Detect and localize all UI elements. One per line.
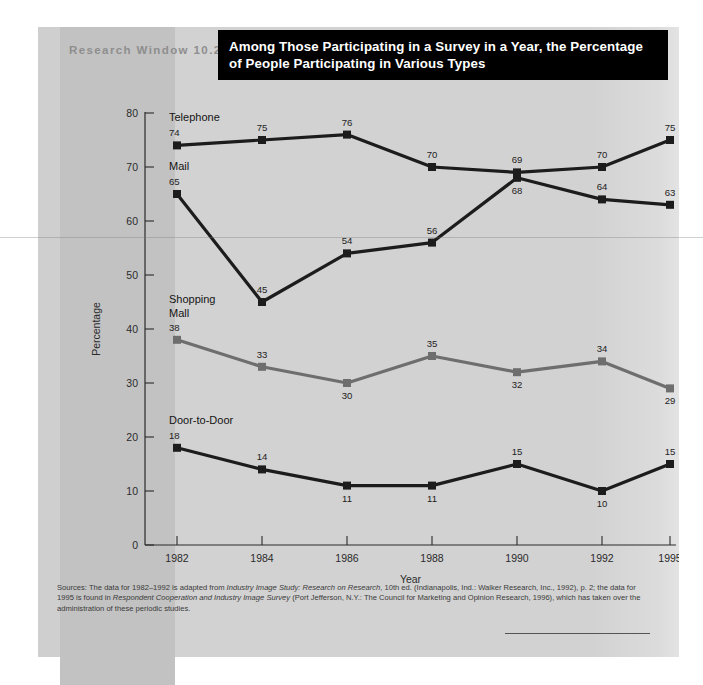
data-point-label: 15 xyxy=(665,446,676,457)
source-line3: administration of these periodic studies… xyxy=(57,604,190,613)
y-tick-label: 60 xyxy=(126,215,138,227)
data-point-label: 18 xyxy=(169,430,180,441)
data-point-marker xyxy=(513,174,521,182)
data-point-marker xyxy=(343,379,351,387)
source-line1-a: Sources: The data for 1982–1992 is adapt… xyxy=(57,583,227,592)
series-label-door-to-door: Door-to-Door xyxy=(169,414,234,426)
series-label-line: Mall xyxy=(169,307,189,319)
data-point-label: 11 xyxy=(342,493,352,504)
chart-svg: 01020304050607080Percentage1982198419861… xyxy=(38,27,679,657)
x-tick-label: 1988 xyxy=(420,552,444,564)
x-tick-label: 1990 xyxy=(505,552,529,564)
data-point-marker xyxy=(428,352,436,360)
y-axis-ticks: 01020304050607080 xyxy=(126,107,154,551)
y-tick-label: 40 xyxy=(126,323,138,335)
data-point-label: 65 xyxy=(169,176,180,187)
data-point-label: 75 xyxy=(665,122,676,133)
series-line xyxy=(177,178,670,302)
series-mail: 65455456686463 xyxy=(169,174,675,306)
page-root: Research Window 10.2 Among Those Partici… xyxy=(0,0,703,685)
series-door-to-door: 18141111151015 xyxy=(169,430,675,509)
data-point-label: 33 xyxy=(257,349,268,360)
data-point-label: 63 xyxy=(665,187,676,198)
data-point-label: 69 xyxy=(512,154,523,165)
data-point-marker xyxy=(666,201,674,209)
x-tick-label: 1995 xyxy=(658,552,679,564)
data-point-label: 54 xyxy=(342,235,353,246)
series-line xyxy=(177,448,670,491)
data-point-label: 15 xyxy=(512,446,523,457)
y-tick-label: 30 xyxy=(126,377,138,389)
data-point-label: 38 xyxy=(169,322,180,333)
y-tick-label: 70 xyxy=(126,161,138,173)
x-axis-ticks: 1982198419861988199019921995 xyxy=(165,536,679,564)
source-line1-italic: Industry Image Study: Research on Resear… xyxy=(227,583,381,592)
data-point-marker xyxy=(173,190,181,198)
data-point-label: 68 xyxy=(512,185,523,196)
data-point-marker xyxy=(258,136,266,144)
y-axis-title: Percentage xyxy=(90,302,102,356)
y-tick-label: 10 xyxy=(126,485,138,497)
data-point-label: 29 xyxy=(665,395,676,406)
y-tick-label: 0 xyxy=(132,539,138,551)
data-point-marker xyxy=(598,195,606,203)
data-point-label: 34 xyxy=(597,343,608,354)
data-point-marker xyxy=(598,357,606,365)
data-point-label: 30 xyxy=(342,390,353,401)
data-point-marker xyxy=(173,141,181,149)
data-point-marker xyxy=(428,482,436,490)
data-point-label: 10 xyxy=(597,498,608,509)
series-telephone: 74757670697075 xyxy=(169,117,675,177)
data-point-marker xyxy=(513,368,521,376)
data-point-marker xyxy=(428,163,436,171)
data-point-marker xyxy=(666,460,674,468)
y-tick-label: 50 xyxy=(126,269,138,281)
data-point-label: 45 xyxy=(257,284,268,295)
source-line1-b: , 10th ed. (Indianapolis, Ind.: Walker R… xyxy=(380,583,636,592)
y-tick-label: 80 xyxy=(126,107,138,119)
series-label-mail: Mail xyxy=(169,160,189,172)
x-tick-label: 1992 xyxy=(590,552,614,564)
x-tick-label: 1986 xyxy=(335,552,359,564)
data-point-marker xyxy=(343,482,351,490)
line-chart: 01020304050607080Percentage1982198419861… xyxy=(38,27,679,657)
axes xyxy=(145,112,676,545)
data-point-marker xyxy=(666,384,674,392)
data-point-marker xyxy=(258,298,266,306)
data-point-marker xyxy=(428,239,436,247)
series-label-line: Door-to-Door xyxy=(169,414,234,426)
x-tick-label: 1984 xyxy=(250,552,274,564)
data-point-label: 74 xyxy=(169,127,180,138)
series-label-telephone: Telephone xyxy=(169,111,220,123)
data-point-label: 56 xyxy=(427,225,438,236)
data-point-label: 64 xyxy=(597,181,608,192)
series-label-shopping-mall: ShoppingMall xyxy=(169,293,216,319)
data-point-label: 32 xyxy=(512,379,523,390)
source-line2-a: 1995 is found in xyxy=(57,593,113,602)
data-point-marker xyxy=(173,444,181,452)
data-point-label: 14 xyxy=(257,451,268,462)
x-tick-label: 1982 xyxy=(165,552,189,564)
y-tick-label: 20 xyxy=(126,431,138,443)
data-point-marker xyxy=(343,249,351,257)
source-line2-b: (Port Jefferson, N.Y.: The Council for M… xyxy=(290,593,640,602)
series-shopping-mall: 38333035323429 xyxy=(169,322,675,407)
series-label-line: Shopping xyxy=(169,293,216,305)
data-point-label: 75 xyxy=(257,122,268,133)
data-point-label: 76 xyxy=(342,117,353,128)
data-point-label: 35 xyxy=(427,338,438,349)
data-point-marker xyxy=(666,136,674,144)
data-point-marker xyxy=(598,487,606,495)
data-point-marker xyxy=(173,336,181,344)
data-point-label: 70 xyxy=(427,149,438,160)
source-line2-italic: Respondent Cooperation and Industry Imag… xyxy=(113,593,290,602)
source-note: Sources: The data for 1982–1992 is adapt… xyxy=(57,583,649,614)
data-point-marker xyxy=(513,460,521,468)
data-point-label: 70 xyxy=(597,149,608,160)
bottom-rule xyxy=(505,633,650,634)
series-label-line: Telephone xyxy=(169,111,220,123)
data-point-marker xyxy=(258,465,266,473)
data-point-marker xyxy=(258,363,266,371)
data-point-marker xyxy=(343,131,351,139)
data-point-label: 11 xyxy=(427,493,437,504)
